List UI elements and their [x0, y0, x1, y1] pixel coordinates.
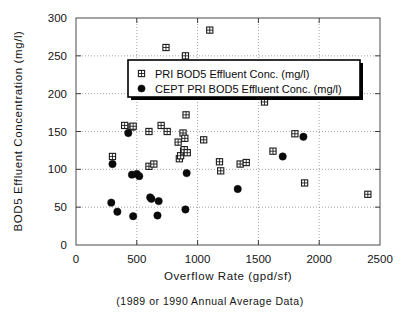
- y-axis-title: BOD5 Effluent Concentration (mg/l): [12, 30, 24, 231]
- data-point-pri: [184, 150, 190, 156]
- legend-label-cept: CEPT PRI BOD5 Effluent Conc. (mg/l): [155, 83, 342, 95]
- y-tick-label: 100: [48, 163, 67, 175]
- filled-circle-icon: [138, 85, 145, 92]
- x-axis-title: Overflow Rate (gpd/sf): [164, 270, 292, 282]
- scatter-plot-svg: 050100150200250300 05001000150020002500 …: [0, 0, 407, 316]
- data-point-pri: [175, 139, 181, 145]
- data-point-pri: [182, 135, 188, 141]
- data-point-pri: [130, 123, 136, 129]
- data-point-cept: [125, 129, 132, 136]
- data-point-pri: [151, 161, 157, 167]
- chart-legend: PRI BOD5 Effluent Conc. (mg/l) CEPT PRI …: [128, 60, 363, 100]
- data-point-pri: [302, 180, 308, 186]
- data-point-pri: [237, 161, 243, 167]
- data-point-cept: [129, 213, 136, 220]
- data-point-pri: [365, 191, 371, 197]
- data-point-cept: [154, 212, 161, 219]
- y-tick-label: 50: [54, 201, 67, 213]
- legend-entry-pri: PRI BOD5 Effluent Conc. (mg/l): [138, 68, 309, 80]
- data-point-pri: [122, 122, 128, 128]
- data-point-pri: [243, 159, 249, 165]
- data-point-pri: [158, 122, 164, 128]
- x-tick-label: 1500: [246, 253, 272, 265]
- chart-figure: 050100150200250300 05001000150020002500 …: [0, 0, 407, 316]
- data-point-pri: [182, 53, 188, 59]
- y-tick-label: 150: [48, 126, 67, 138]
- y-tick-label: 300: [48, 12, 67, 24]
- x-tick-label: 0: [73, 253, 79, 265]
- data-point-cept: [108, 199, 115, 206]
- y-tick-label: 0: [61, 239, 67, 251]
- legend-entry-cept: CEPT PRI BOD5 Effluent Conc. (mg/l): [138, 83, 342, 95]
- data-point-pri: [270, 148, 276, 154]
- data-point-cept: [183, 169, 190, 176]
- data-point-cept: [114, 208, 121, 215]
- x-tick-label: 2500: [367, 253, 393, 265]
- data-point-cept: [234, 185, 241, 192]
- legend-label-pri: PRI BOD5 Effluent Conc. (mg/l): [155, 68, 309, 80]
- grid-lines: [76, 18, 380, 245]
- data-point-pri: [146, 128, 152, 134]
- x-tick-label: 500: [127, 253, 146, 265]
- data-point-cept: [109, 160, 116, 167]
- data-point-cept: [136, 172, 143, 179]
- data-point-pri: [218, 168, 224, 174]
- data-point-cept: [300, 133, 307, 140]
- data-point-pri: [163, 44, 169, 50]
- crosshatched-square-icon: [138, 70, 144, 76]
- data-point-cept: [279, 153, 286, 160]
- y-tick-label: 250: [48, 50, 67, 62]
- data-point-pri: [207, 27, 213, 33]
- data-point-pri: [201, 137, 207, 143]
- y-tick-label: 200: [48, 88, 67, 100]
- series-pri-points: [109, 27, 371, 197]
- data-point-pri: [164, 128, 170, 134]
- figure-caption: (1989 or 1990 Annual Average Data): [116, 295, 303, 307]
- y-axis-tick-labels: 050100150200250300: [48, 12, 67, 251]
- data-point-pri: [292, 131, 298, 137]
- data-point-cept: [148, 195, 155, 202]
- data-point-cept: [155, 197, 162, 204]
- x-tick-label: 1000: [185, 253, 211, 265]
- x-tick-label: 2000: [306, 253, 332, 265]
- x-axis-tick-labels: 05001000150020002500: [73, 253, 393, 265]
- crosshatched-square-glyph: [138, 70, 144, 76]
- data-point-pri: [183, 112, 189, 118]
- data-point-cept: [182, 206, 189, 213]
- data-point-pri: [109, 153, 115, 159]
- data-point-pri: [216, 159, 222, 165]
